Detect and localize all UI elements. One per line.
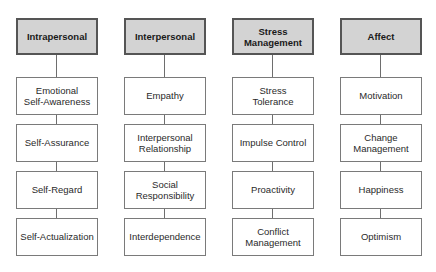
connector-line xyxy=(56,115,57,124)
connector-line xyxy=(164,55,165,77)
item-happiness: Happiness xyxy=(340,171,422,209)
item-impulse-control: Impulse Control xyxy=(232,124,314,162)
item-emotional-self-awareness: Emotional Self-Awareness xyxy=(16,77,98,115)
connector-line xyxy=(380,55,381,77)
connector-line xyxy=(56,209,57,218)
emotional-intelligence-diagram: Intrapersonal Emotional Self-Awareness S… xyxy=(0,0,436,272)
connector-line xyxy=(272,209,273,218)
connector-line xyxy=(272,55,273,77)
item-empathy: Empathy xyxy=(124,77,206,115)
connector-line xyxy=(164,162,165,171)
column-header-interpersonal: Interpersonal xyxy=(124,18,206,55)
connector-line xyxy=(272,115,273,124)
connector-line xyxy=(380,162,381,171)
column-header-affect: Affect xyxy=(340,18,422,55)
connector-line xyxy=(56,55,57,77)
connector-line xyxy=(164,209,165,218)
item-self-assurance: Self-Assurance xyxy=(16,124,98,162)
column-header-intrapersonal: Intrapersonal xyxy=(16,18,98,55)
item-interdependence: Interdependence xyxy=(124,218,206,256)
connector-line xyxy=(164,115,165,124)
connector-line xyxy=(272,162,273,171)
item-change-management: Change Management xyxy=(340,124,422,162)
item-proactivity: Proactivity xyxy=(232,171,314,209)
connector-line xyxy=(380,209,381,218)
item-self-actualization: Self-Actualization xyxy=(16,218,98,256)
item-motivation: Motivation xyxy=(340,77,422,115)
item-self-regard: Self-Regard xyxy=(16,171,98,209)
column-affect: Affect Motivation Change Management Happ… xyxy=(340,18,422,258)
column-stress-management: Stress Management Stress Tolerance Impul… xyxy=(232,18,314,258)
connector-line xyxy=(380,115,381,124)
item-social-responsibility: Social Responsibility xyxy=(124,171,206,209)
item-optimism: Optimism xyxy=(340,218,422,256)
column-intrapersonal: Intrapersonal Emotional Self-Awareness S… xyxy=(16,18,98,258)
connector-line xyxy=(56,162,57,171)
column-interpersonal: Interpersonal Empathy Interpersonal Rela… xyxy=(124,18,206,258)
item-stress-tolerance: Stress Tolerance xyxy=(232,77,314,115)
item-conflict-management: Conflict Management xyxy=(232,218,314,256)
column-header-stress-management: Stress Management xyxy=(232,18,314,55)
item-interpersonal-relationship: Interpersonal Relationship xyxy=(124,124,206,162)
